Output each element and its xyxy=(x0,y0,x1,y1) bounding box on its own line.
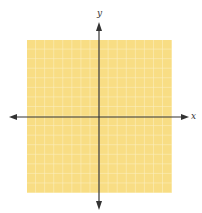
y-axis-label: y xyxy=(97,9,102,18)
y-axis-up-arrow-icon xyxy=(96,22,102,31)
x-axis-left-arrow-icon xyxy=(9,114,17,120)
coordinate-grid-svg xyxy=(0,0,202,213)
x-axis-label: x xyxy=(191,112,196,121)
x-axis-right-arrow-icon xyxy=(181,114,189,120)
y-axis-down-arrow-icon xyxy=(96,201,102,210)
